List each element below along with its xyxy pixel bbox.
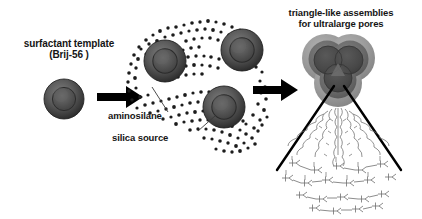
label-triangle-like-assemblies: triangle-like assembliesfor ultralarge p…: [268, 8, 414, 29]
label-aminosilane: aminosilane: [108, 111, 196, 122]
surfactant-template-line2: (Brij-56 ): [49, 49, 89, 60]
stage-3-triangle-assembly: [302, 34, 375, 107]
label-surfactant-template: surfactant template(Brij-56 ): [8, 38, 130, 60]
leader-aminosilane: [152, 87, 168, 112]
stage-2-micelle-lower-right: [203, 86, 245, 128]
stage-1-micelle: [44, 79, 84, 119]
label-silica-source: silica source: [112, 133, 200, 144]
diagram-canvas: [0, 0, 422, 219]
stage-2-micelle-upper-left: [144, 40, 186, 82]
reaction-scheme-figure: surfactant template(Brij-56 ) triangle-l…: [0, 0, 422, 219]
triangle-label-line1: triangle-like assemblies: [289, 7, 394, 18]
silica-surfactant-molecular-network: [282, 108, 396, 215]
stage-2-micelle-upper-right: [221, 29, 263, 71]
surfactant-template-line1: surfactant template: [24, 38, 114, 49]
triangle-label-line2: for ultralarge pores: [298, 18, 383, 29]
